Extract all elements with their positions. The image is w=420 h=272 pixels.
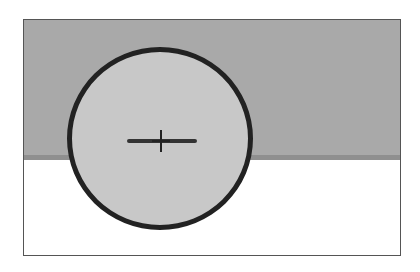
crosshair-icon (160, 130, 162, 152)
brush-cursor-icon[interactable] (67, 47, 253, 230)
canvas-frame (23, 19, 401, 256)
